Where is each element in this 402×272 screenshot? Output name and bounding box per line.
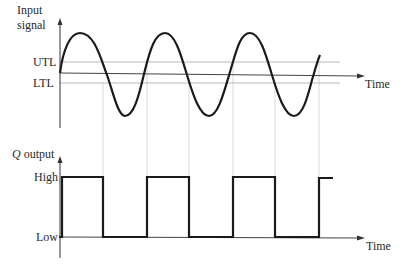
q-symbol: Q xyxy=(12,147,21,161)
ltl-label: LTL xyxy=(33,76,54,90)
output-square-wave xyxy=(59,177,333,237)
input-x-axis-arrow-icon xyxy=(357,74,365,79)
input-y-axis-arrow-icon xyxy=(58,18,63,25)
output-x-axis-arrow-icon xyxy=(357,236,365,241)
utl-label: UTL xyxy=(33,55,56,69)
input-panel: Input signal UTL LTL Time xyxy=(17,3,390,128)
q-output-label: Q output xyxy=(12,147,55,161)
input-axis-label-line2: signal xyxy=(17,18,46,32)
output-panel: Q output High Low Time xyxy=(12,147,391,258)
input-axis-label-line1: Input xyxy=(17,3,43,17)
output-time-label: Time xyxy=(366,239,391,253)
schmitt-trigger-diagram: Input signal UTL LTL Time Q output High … xyxy=(0,0,402,272)
output-word: output xyxy=(21,147,55,161)
output-y-axis-arrow-icon xyxy=(58,156,63,163)
high-label: High xyxy=(34,170,58,184)
low-label: Low xyxy=(36,230,58,244)
transition-guides xyxy=(103,62,319,177)
input-time-label: Time xyxy=(365,77,390,91)
